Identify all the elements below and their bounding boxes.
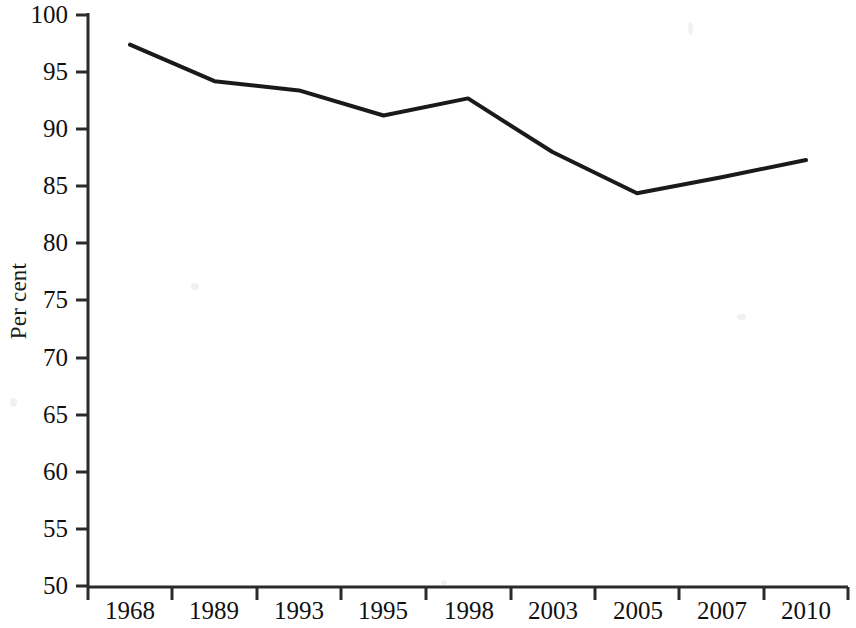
- x-tick-label: 2003: [507, 598, 599, 623]
- y-axis-ticks: [76, 15, 88, 586]
- x-tick-label: 1995: [337, 598, 429, 623]
- y-tick-label: 90: [6, 116, 68, 141]
- plot-area: [0, 0, 856, 628]
- y-tick-label: 50: [6, 573, 68, 598]
- y-tick-label: 75: [6, 287, 68, 312]
- x-tick-label: 1968: [84, 598, 176, 623]
- x-tick-label: 1989: [168, 598, 260, 623]
- x-tick-label: 2010: [760, 598, 852, 623]
- x-tick-label: 2005: [592, 598, 684, 623]
- x-tick-label: 1993: [253, 598, 345, 623]
- data-series-line: [130, 45, 806, 194]
- y-tick-label: 55: [6, 516, 68, 541]
- x-tick-label: 1998: [423, 598, 515, 623]
- y-tick-label: 65: [6, 402, 68, 427]
- line-chart: 100 95 90 85 80 75 70 65 60 55 50 1968 1…: [0, 0, 856, 628]
- y-tick-label: 70: [6, 345, 68, 370]
- y-tick-label: 100: [6, 2, 68, 27]
- y-tick-label: 95: [6, 59, 68, 84]
- y-tick-label: 80: [6, 230, 68, 255]
- y-tick-label: 85: [6, 173, 68, 198]
- y-tick-label: 60: [6, 459, 68, 484]
- x-tick-label: 2007: [676, 598, 768, 623]
